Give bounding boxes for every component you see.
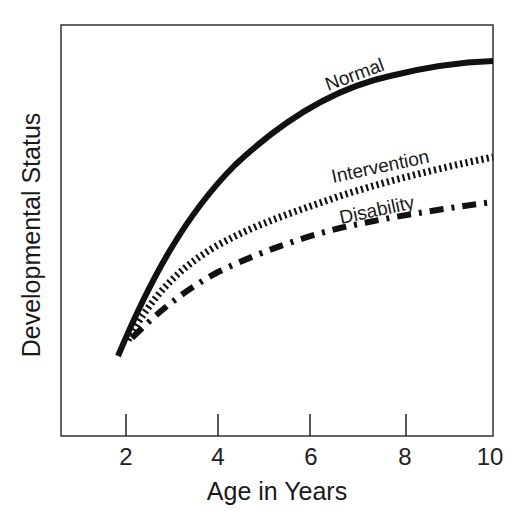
x-axis-tick-labels: 2 4 6 8 10 bbox=[119, 443, 503, 470]
tick-label-2: 2 bbox=[119, 443, 132, 470]
x-axis-ticks bbox=[126, 414, 406, 436]
label-intervention: Intervention bbox=[329, 146, 430, 187]
curve-intervention bbox=[128, 157, 493, 340]
plot-frame bbox=[61, 25, 493, 436]
chart: 2 4 6 8 10 Age in Years Developmental St… bbox=[0, 0, 526, 516]
x-axis-title: Age in Years bbox=[207, 477, 347, 505]
tick-label-4: 4 bbox=[211, 443, 224, 470]
y-axis-title: Developmental Status bbox=[17, 113, 45, 358]
tick-label-8: 8 bbox=[398, 443, 411, 470]
tick-label-10: 10 bbox=[477, 443, 504, 470]
tick-label-6: 6 bbox=[304, 443, 317, 470]
